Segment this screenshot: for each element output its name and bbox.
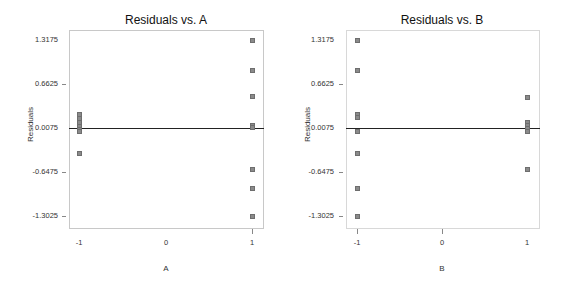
plot-frame-a <box>69 30 264 229</box>
ytick-label: 1.3175 <box>294 35 334 44</box>
xtick-mark <box>442 229 443 234</box>
ytick-label: 0.0075 <box>18 123 58 132</box>
plot-frame-b <box>346 30 540 229</box>
xtick-label: -1 <box>347 238 367 247</box>
ytick-mark <box>62 172 66 173</box>
ytick-mark <box>62 84 66 85</box>
data-point <box>355 151 360 156</box>
data-point <box>250 186 255 191</box>
ytick-label: 0.6625 <box>294 79 334 88</box>
reference-line-b <box>346 128 540 129</box>
ytick-mark <box>339 172 343 173</box>
data-point <box>355 38 360 43</box>
x-axis-label-a: A <box>146 264 186 273</box>
data-point <box>250 68 255 73</box>
ytick-label: 0.6625 <box>18 79 58 88</box>
data-point <box>250 125 255 130</box>
data-point <box>250 38 255 43</box>
data-point <box>250 214 255 219</box>
data-point <box>355 186 360 191</box>
xtick-label: 0 <box>432 238 452 247</box>
data-point <box>355 214 360 219</box>
data-point <box>355 115 360 120</box>
data-point <box>355 129 360 134</box>
data-point <box>250 94 255 99</box>
chart-title-b: Residuals vs. B <box>342 13 542 27</box>
ytick-label: -1.3025 <box>294 211 334 220</box>
xtick-label: -1 <box>69 238 89 247</box>
xtick-label: 1 <box>242 238 262 247</box>
y-axis-label-b: Residuals <box>303 95 312 155</box>
y-axis-label-a: Residuals <box>26 95 35 155</box>
data-point <box>525 167 530 172</box>
x-axis-label-b: B <box>422 264 462 273</box>
chart-panel-b: Residuals vs. B 1.3175 0.6625 0.0075 -0.… <box>282 0 564 284</box>
xtick-mark <box>357 229 358 234</box>
data-point <box>77 151 82 156</box>
data-point <box>525 129 530 134</box>
ytick-label: -0.6475 <box>294 167 334 176</box>
ytick-mark <box>62 216 66 217</box>
ytick-label: -0.6475 <box>18 167 58 176</box>
data-point <box>355 68 360 73</box>
ytick-label: 1.3175 <box>18 35 58 44</box>
ytick-label: 0.0075 <box>294 123 334 132</box>
ytick-label: -1.3025 <box>18 211 58 220</box>
xtick-label: 1 <box>517 238 537 247</box>
data-point <box>525 95 530 100</box>
reference-line-a <box>69 128 264 129</box>
data-point <box>77 129 82 134</box>
chart-panel-a: Residuals vs. A 1.3175 0.6625 0.0075 -0.… <box>0 0 282 284</box>
xtick-mark <box>252 229 253 234</box>
data-point <box>250 167 255 172</box>
ytick-mark <box>339 84 343 85</box>
xtick-label: 0 <box>156 238 176 247</box>
chart-title-a: Residuals vs. A <box>66 13 266 27</box>
ytick-mark <box>339 216 343 217</box>
